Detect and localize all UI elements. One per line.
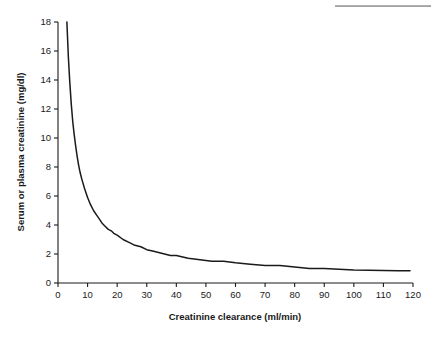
y-tick-label: 18: [40, 16, 51, 27]
x-tick-label: 60: [230, 289, 241, 300]
x-tick-label: 20: [112, 289, 123, 300]
data-series-line: [67, 22, 410, 271]
y-tick-label: 4: [46, 219, 51, 230]
x-tick-label: 40: [171, 289, 182, 300]
x-axis-title: Creatinine clearance (ml/min): [169, 311, 302, 322]
x-axis-ticks: [58, 283, 413, 287]
x-tick-label: 100: [346, 289, 362, 300]
y-tick-label: 8: [46, 161, 51, 172]
x-tick-label: 30: [141, 289, 152, 300]
x-tick-label: 50: [201, 289, 212, 300]
x-tick-label: 10: [82, 289, 93, 300]
y-tick-label: 14: [40, 74, 51, 85]
x-axis-tick-labels: 0102030405060708090100110120: [55, 289, 421, 300]
x-tick-label: 0: [55, 289, 60, 300]
x-tick-label: 90: [319, 289, 330, 300]
y-axis-title: Serum or plasma creatinine (mg/dl): [15, 73, 26, 232]
x-tick-label: 120: [405, 289, 421, 300]
y-tick-label: 16: [40, 45, 51, 56]
x-tick-label: 70: [260, 289, 271, 300]
x-tick-label: 80: [289, 289, 300, 300]
creatinine-clearance-chart: 024681012141618 010203040506070809010011…: [0, 0, 434, 338]
y-tick-label: 0: [46, 277, 51, 288]
y-tick-label: 12: [40, 103, 51, 114]
y-axis-tick-labels: 024681012141618: [40, 16, 51, 288]
y-tick-label: 6: [46, 190, 51, 201]
header-rule: [335, 5, 431, 7]
y-tick-label: 10: [40, 132, 51, 143]
y-axis-ticks: [54, 22, 58, 283]
chart-figure: 024681012141618 010203040506070809010011…: [0, 0, 434, 338]
y-tick-label: 2: [46, 248, 51, 259]
x-tick-label: 110: [376, 289, 391, 300]
